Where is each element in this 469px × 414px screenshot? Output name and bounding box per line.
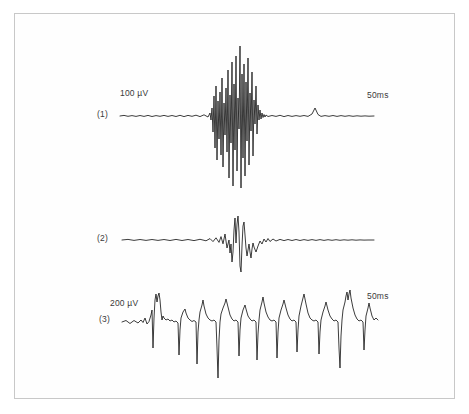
scale-bar-label-trace1: 100 µV (120, 89, 148, 98)
time-bar-label-trace3: 50ms (367, 292, 389, 301)
emg-trace-2 (122, 216, 374, 272)
emg-trace-1 (120, 46, 374, 188)
trace-label-1: (1) (97, 110, 108, 119)
emg-figure: 100 µV 50ms (1) (2) 200 µV 50ms (3) (0, 0, 469, 414)
scale-bar-label-trace3: 200 µV (110, 299, 138, 308)
time-bar-label-trace1: 50ms (367, 91, 389, 100)
emg-trace-3 (122, 290, 378, 378)
emg-plot-canvas (0, 0, 469, 414)
trace-group (120, 46, 378, 378)
trace-label-3: (3) (99, 315, 110, 324)
trace-label-2: (2) (97, 234, 108, 243)
